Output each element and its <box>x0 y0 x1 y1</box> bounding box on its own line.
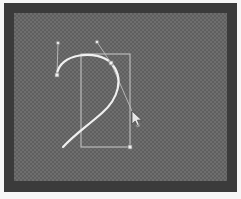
bezier-path[interactable] <box>57 55 119 147</box>
arrow-cursor-icon <box>132 111 142 126</box>
anchor-node-start[interactable] <box>55 73 59 77</box>
app-window <box>0 0 241 199</box>
anchor-nodes-group <box>55 61 132 149</box>
artboard-canvas[interactable] <box>14 13 227 181</box>
handle-knob-top-left[interactable] <box>56 41 60 45</box>
handle-knobs-group <box>56 40 140 127</box>
selection-bounding-box[interactable] <box>81 54 130 147</box>
vector-layer[interactable] <box>14 13 227 181</box>
handle-knob-top-right[interactable] <box>95 40 99 44</box>
anchor-node-end[interactable] <box>128 145 132 149</box>
editor-frame <box>4 3 237 192</box>
arrow-cursor-glyph <box>132 111 142 126</box>
anchor-node-corner[interactable] <box>109 61 113 65</box>
